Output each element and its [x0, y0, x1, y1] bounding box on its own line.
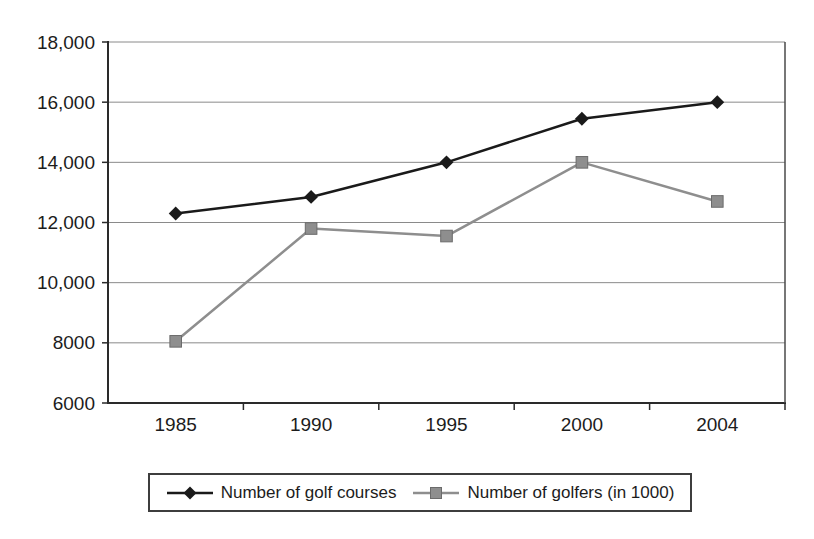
svg-text:16,000: 16,000 [37, 92, 95, 113]
line-chart: 6000800010,00012,00014,00016,00018,00019… [0, 0, 814, 539]
svg-text:2004: 2004 [696, 414, 739, 435]
golf-courses-diamond-marker-icon [166, 486, 214, 500]
golfers-square-marker-icon [412, 486, 460, 500]
legend-label-golf-courses: Number of golf courses [221, 483, 397, 503]
legend: Number of golf courses Number of golfers… [148, 473, 692, 512]
svg-text:10,000: 10,000 [37, 272, 95, 293]
line-chart-plot-area: 6000800010,00012,00014,00016,00018,00019… [0, 0, 814, 460]
legend-label-golfers: Number of golfers (in 1000) [467, 483, 674, 503]
svg-text:18,000: 18,000 [37, 32, 95, 53]
svg-text:1990: 1990 [290, 414, 332, 435]
svg-text:1995: 1995 [425, 414, 467, 435]
legend-item-golfers: Number of golfers (in 1000) [412, 483, 674, 503]
svg-text:14,000: 14,000 [37, 152, 95, 173]
svg-text:8000: 8000 [53, 332, 95, 353]
svg-text:2000: 2000 [561, 414, 603, 435]
svg-text:12,000: 12,000 [37, 212, 95, 233]
svg-text:6000: 6000 [53, 393, 95, 414]
legend-item-golf-courses: Number of golf courses [166, 483, 397, 503]
svg-text:1985: 1985 [155, 414, 197, 435]
